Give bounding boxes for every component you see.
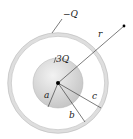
diagram-canvas: −Q 3Q a b c r [0, 0, 133, 139]
shell-charge-leader [52, 19, 62, 33]
radius-a-label: a [44, 90, 49, 100]
point-dot [123, 25, 126, 28]
distance-r-label: r [98, 29, 103, 39]
radius-b-label: b [69, 110, 75, 120]
radius-c-label: c [92, 91, 97, 101]
center-dot [56, 81, 60, 85]
sphere-charge-label: 3Q [56, 54, 70, 64]
shell-charge-label: −Q [63, 9, 79, 19]
